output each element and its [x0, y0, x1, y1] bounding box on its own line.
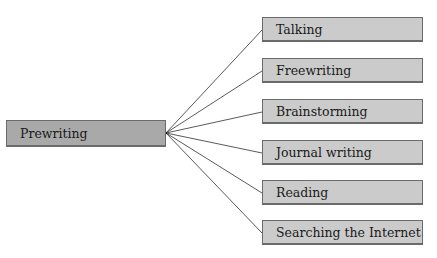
child-node-label: Searching the Internet [276, 225, 421, 240]
child-node-journal-writing: Journal writing [262, 140, 423, 165]
child-node-label: Journal writing [276, 145, 372, 160]
connector-searching-the-internet [166, 133, 262, 233]
child-node-brainstorming: Brainstorming [262, 99, 423, 124]
child-node-label: Talking [276, 22, 322, 37]
connector-journal-writing [166, 133, 262, 153]
connector-brainstorming [166, 112, 262, 133]
root-node-label: Prewriting [20, 126, 88, 141]
connector-talking [166, 30, 262, 133]
child-node-reading: Reading [262, 180, 423, 205]
connector-reading [166, 133, 262, 193]
child-node-label: Reading [276, 185, 328, 200]
child-node-label: Freewriting [276, 63, 351, 78]
child-node-label: Brainstorming [276, 104, 368, 119]
child-node-searching-the-internet: Searching the Internet [262, 220, 423, 245]
root-node-prewriting: Prewriting [6, 120, 166, 147]
child-node-talking: Talking [262, 17, 423, 42]
child-node-freewriting: Freewriting [262, 58, 423, 83]
connector-freewriting [166, 71, 262, 133]
